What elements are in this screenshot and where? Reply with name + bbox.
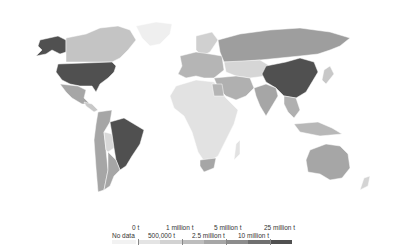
region-canada[interactable] xyxy=(66,26,136,62)
legend-swatch-bin-4 xyxy=(204,240,226,244)
region-alaska[interactable] xyxy=(36,36,66,56)
legend-swatch-bin-5 xyxy=(226,240,248,244)
legend-swatch-bin-3 xyxy=(182,240,204,244)
region-south-africa[interactable] xyxy=(200,158,216,172)
region-russia[interactable] xyxy=(218,28,350,62)
legend-label-500k: 500,000 t xyxy=(148,232,175,239)
region-australia[interactable] xyxy=(306,144,350,180)
legend-bottom-labels: No data 500,000 t 2.5 million t 10 milli… xyxy=(112,232,312,240)
legend-label-0t: 0 t xyxy=(132,224,139,231)
legend-tick xyxy=(182,239,183,245)
legend-swatch-no-data xyxy=(112,240,136,244)
map-legend: 0 t 1 million t 5 million t 25 million t… xyxy=(112,224,312,247)
region-indonesia[interactable] xyxy=(294,122,342,136)
region-madagascar[interactable] xyxy=(234,140,240,160)
legend-label-2-5m: 2.5 million t xyxy=(192,232,225,239)
region-mexico[interactable] xyxy=(60,84,90,104)
legend-swatch-bin-6 xyxy=(248,240,270,244)
region-new-zealand[interactable] xyxy=(360,176,370,190)
legend-tick xyxy=(226,239,227,245)
region-india[interactable] xyxy=(254,84,278,116)
legend-swatch-bin-7 xyxy=(270,240,292,244)
region-europe[interactable] xyxy=(178,52,224,78)
legend-top-labels: 0 t 1 million t 5 million t 25 million t xyxy=(112,224,312,232)
legend-swatch-bin-2 xyxy=(160,240,182,244)
legend-label-10m: 10 million t xyxy=(238,232,269,239)
legend-tick xyxy=(138,239,139,245)
region-southeast-asia[interactable] xyxy=(284,96,300,118)
legend-label-no-data: No data xyxy=(112,232,135,239)
legend-swatch-bin-1 xyxy=(138,240,160,244)
region-egypt[interactable] xyxy=(212,84,224,96)
region-greenland[interactable] xyxy=(136,22,172,46)
legend-tick xyxy=(270,239,271,245)
region-japan[interactable] xyxy=(322,66,334,84)
world-map xyxy=(0,0,413,215)
region-central-america[interactable] xyxy=(84,102,98,112)
legend-label-25m: 25 million t xyxy=(264,224,295,231)
legend-label-5m: 5 million t xyxy=(214,224,241,231)
legend-label-1m: 1 million t xyxy=(166,224,193,231)
